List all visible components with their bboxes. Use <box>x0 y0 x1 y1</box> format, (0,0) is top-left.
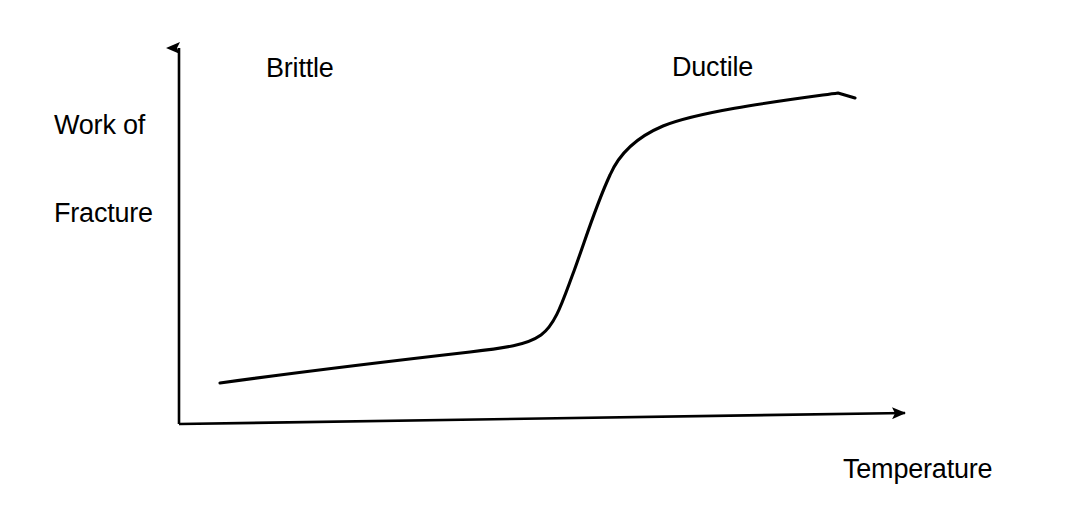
figure-canvas: Work of Fracture Brittle Ductile Tempera… <box>0 0 1072 514</box>
annotation-ductile: Ductile <box>672 54 753 81</box>
work-of-fracture-curve <box>220 93 855 383</box>
y-axis-label-line2: Fracture <box>54 196 153 230</box>
plot-svg <box>0 0 1072 514</box>
annotation-brittle: Brittle <box>266 55 334 82</box>
y-axis-label-line1: Work of <box>54 108 153 142</box>
x-axis-line <box>179 413 905 424</box>
y-axis-label: Work of Fracture <box>54 54 153 284</box>
x-axis-label: Temperature <box>843 456 992 483</box>
